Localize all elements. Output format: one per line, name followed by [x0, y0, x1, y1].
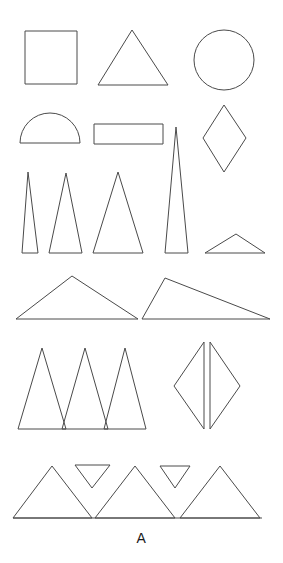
rectangle-shape [94, 124, 163, 144]
down-triangle-1-shape [75, 465, 110, 488]
down-triangle-2-shape [160, 466, 190, 488]
row-zigzag-and-mirrored-triangles [18, 342, 240, 429]
diamond-shape [203, 105, 246, 172]
spike-triangle-shape [165, 127, 188, 253]
zigzag-triangle-2-shape [62, 348, 108, 429]
row-narrow-to-wide-triangles [22, 127, 265, 253]
obtuse-triangle-left-shape [16, 276, 138, 319]
flat-triangle-shape [205, 234, 265, 253]
up-triangle-2-shape [95, 466, 175, 518]
zigzag-triangle-1-shape [18, 348, 66, 429]
semicircle-shape [20, 113, 80, 143]
narrow-triangle-3-shape [93, 172, 143, 253]
figure-panel: A [0, 0, 283, 563]
circle-shape [194, 30, 254, 90]
panel-label: A [0, 529, 283, 547]
zigzag-triangle-3-shape [104, 348, 146, 429]
mirrored-triangle-right-shape [210, 342, 240, 429]
equilateral-triangle-shape [98, 30, 168, 85]
up-triangle-1-shape [13, 466, 92, 518]
row-basic-shapes [25, 30, 254, 90]
up-triangle-3-shape [180, 466, 260, 518]
narrow-triangle-1-shape [22, 172, 38, 253]
row-semicircle-rectangle-diamond [20, 105, 246, 172]
narrow-triangle-2-shape [49, 173, 82, 253]
geometric-shapes-canvas [0, 0, 283, 563]
obtuse-triangle-right-shape [142, 278, 270, 319]
row-tessellation-strip [13, 465, 262, 518]
mirrored-triangle-left-shape [174, 342, 204, 429]
row-obtuse-triangles [16, 276, 270, 319]
square-shape [25, 31, 77, 84]
